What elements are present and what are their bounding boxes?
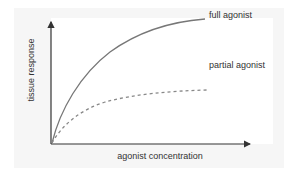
- full-agonist-curve: [52, 19, 205, 143]
- full-agonist-label: full agonist: [209, 10, 252, 20]
- chart-svg: [0, 0, 295, 175]
- x-axis-label: agonist concentration: [117, 151, 203, 161]
- y-axis-label: tissue response: [26, 38, 36, 101]
- partial-agonist-label: partial agonist: [209, 60, 265, 70]
- partial-agonist-curve: [52, 90, 207, 143]
